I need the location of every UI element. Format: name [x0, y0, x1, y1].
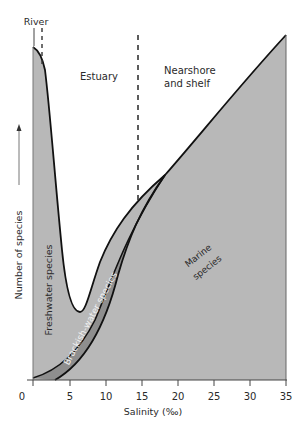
x-ticks [33, 380, 286, 386]
svg-text:25: 25 [208, 391, 221, 402]
and-shelf-label: and shelf [164, 78, 210, 89]
y-arrow-icon [17, 124, 22, 131]
y-axis-title: Number of species [13, 211, 24, 300]
svg-text:20: 20 [172, 391, 185, 402]
river-label: River [24, 16, 49, 27]
nearshore-label: Nearshore [164, 65, 216, 76]
estuary-label: Estuary [80, 71, 118, 82]
svg-text:0: 0 [19, 391, 25, 402]
x-tick-labels: 0 5 10 15 20 25 30 35 [19, 391, 293, 402]
x-axis-title: Salinity (‰) [124, 406, 182, 417]
svg-text:35: 35 [280, 391, 293, 402]
svg-text:15: 15 [136, 391, 149, 402]
salinity-species-diagram: 0 5 10 15 20 25 30 35 Salinity (‰) Numbe… [0, 0, 305, 426]
svg-text:30: 30 [244, 391, 257, 402]
freshwater-species-label: Freshwater species [43, 245, 54, 336]
svg-text:5: 5 [67, 391, 73, 402]
svg-text:10: 10 [100, 391, 113, 402]
